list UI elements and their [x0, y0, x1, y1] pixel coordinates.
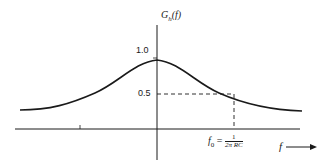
y-tick-label-half: 0.5: [138, 89, 151, 98]
y-axis-label: Gh(f): [161, 10, 181, 23]
y-axis-label-arg: (f): [172, 9, 181, 20]
cutoff-denominator: 2π RC: [225, 142, 243, 149]
response-curve: [20, 60, 302, 111]
cutoff-lhs-sub: 0: [211, 141, 215, 149]
cutoff-fraction: 1 2π RC: [225, 134, 243, 150]
cutoff-frequency-label: f0 = 1 2π RC: [208, 134, 243, 150]
x-axis-label: f: [279, 141, 282, 152]
f-arrowhead-icon: [310, 144, 317, 150]
y-tick-label-1: 1.0: [136, 46, 149, 55]
cutoff-equals: =: [217, 135, 223, 146]
